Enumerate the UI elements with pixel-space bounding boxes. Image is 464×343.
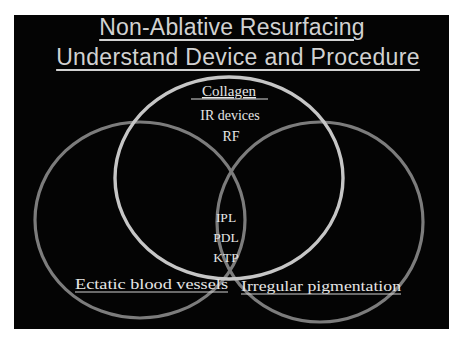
region-center-item: KTP bbox=[213, 250, 239, 265]
region-center-item: IPL bbox=[216, 210, 236, 225]
region-collagen-item: RF bbox=[222, 129, 239, 144]
label-irregular-pigmentation: Irregular pigmentation bbox=[241, 278, 402, 294]
venn-diagram: Collagen IR devices RF IPL PDL KTP Ectat… bbox=[0, 0, 464, 343]
region-collagen-item: IR devices bbox=[200, 108, 259, 123]
label-ectatic-blood-vessels: Ectatic blood vessels bbox=[75, 276, 228, 292]
label-collagen: Collagen bbox=[202, 83, 257, 99]
region-center-item: PDL bbox=[213, 230, 239, 245]
